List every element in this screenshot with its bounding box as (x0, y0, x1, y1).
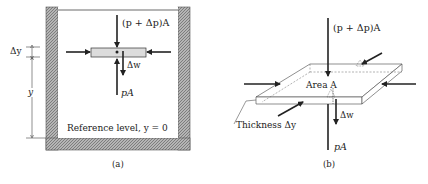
label-weight-a: Δw (127, 61, 140, 70)
label-bottom-force-a: pA (121, 88, 134, 98)
label-reference-level: Reference level, y = 0 (67, 124, 168, 133)
fluid-element-a (91, 48, 146, 57)
caption-a: (a) (112, 160, 124, 169)
label-top-force-a: (p + Δp)A (122, 18, 169, 28)
label-top-force-b: (p + Δp)A (333, 23, 380, 33)
label-y-a: y (28, 88, 33, 97)
label-thickness-b: Thickness Δy (236, 121, 296, 130)
label-area-b: Area A (306, 81, 337, 90)
label-weight-b: Δw (340, 111, 353, 120)
figure: (p + Δp)A Δw pA Δy y Reference level, y … (0, 0, 428, 184)
label-bottom-force-b: pA (334, 142, 347, 152)
label-delta-y-a: Δy (10, 47, 22, 56)
caption-b: (b) (323, 160, 335, 169)
